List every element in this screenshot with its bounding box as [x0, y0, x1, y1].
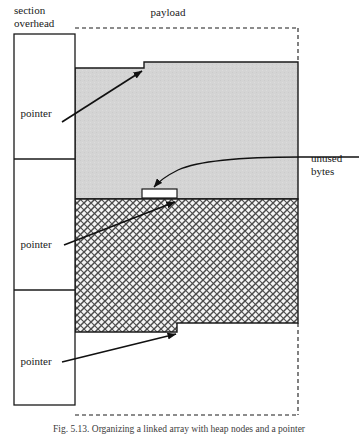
- label-unused-bytes-line1: unused: [311, 152, 343, 164]
- payload-block-lower: [75, 199, 298, 332]
- unused-bytes-rect: [142, 189, 177, 198]
- label-pointer-2: pointer: [20, 238, 51, 250]
- figure-root: section overhead payload pointer pointer…: [0, 0, 359, 435]
- label-pointer-1: pointer: [20, 107, 51, 119]
- label-unused-bytes-line2: bytes: [311, 165, 334, 177]
- label-payload: payload: [151, 6, 186, 18]
- section-overhead-column: [14, 34, 75, 405]
- label-section-overhead-line1: section: [14, 4, 46, 16]
- memory-layout-diagram: section overhead payload pointer pointer…: [0, 0, 359, 435]
- label-section-overhead-line2: overhead: [14, 17, 55, 29]
- label-pointer-3: pointer: [20, 355, 51, 367]
- figure-caption: Fig. 5.13. Organizing a linked array wit…: [53, 424, 306, 434]
- payload-block-upper: [75, 62, 298, 199]
